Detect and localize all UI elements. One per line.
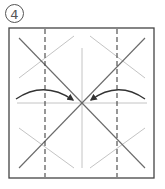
origami-diagram <box>0 0 165 189</box>
fold-arrows <box>16 90 145 100</box>
arrow-right-to-center-icon <box>91 90 145 100</box>
